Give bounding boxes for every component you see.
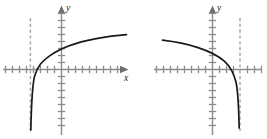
left-y-axis-label: y bbox=[65, 3, 71, 13]
left-y-axis-arrowhead bbox=[58, 6, 65, 14]
left-graph-panel: y x bbox=[0, 0, 133, 139]
right-y-axis-arrowhead bbox=[209, 6, 216, 14]
two-log-graphs-figure: y x bbox=[0, 0, 267, 139]
left-x-axis-label: x bbox=[123, 73, 129, 83]
right-log-curve bbox=[163, 40, 240, 128]
right-graph-panel: y bbox=[134, 0, 267, 139]
right-graph-svg: y bbox=[134, 0, 267, 139]
left-graph-svg: y x bbox=[0, 0, 133, 139]
left-log-curve bbox=[31, 35, 127, 130]
right-y-axis-label: y bbox=[216, 3, 222, 13]
